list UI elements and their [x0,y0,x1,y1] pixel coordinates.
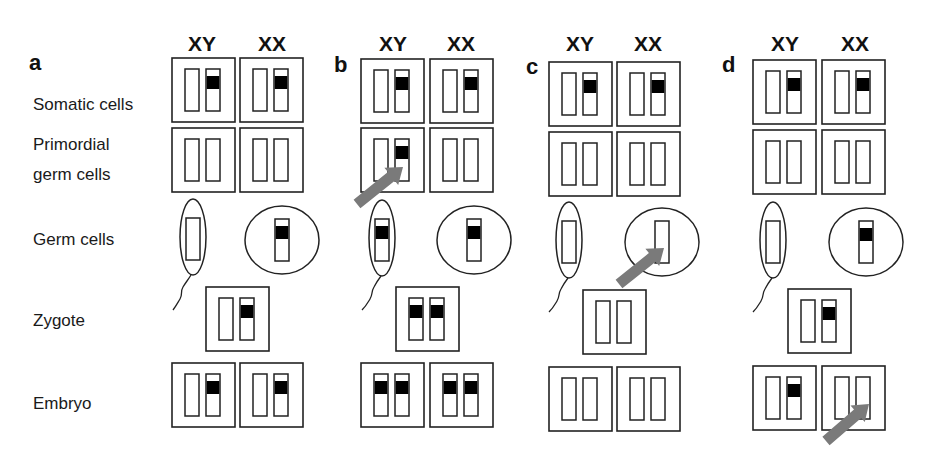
somatic-cell-xy [172,58,235,122]
column-label-xy: XY [188,32,216,55]
column-label-xy: XY [771,32,799,55]
chromosome [562,221,576,263]
sperm-cell [753,202,786,312]
primordial-germ-cell-xx [617,132,680,196]
embryo-cell-xx [430,363,493,427]
imprint-mark [207,76,220,89]
sperm-cell [549,202,582,312]
chromosome [651,73,665,115]
chromosome [253,139,267,181]
panel-b: bXYXX [334,32,511,427]
imprinting-diagram: Somatic cellsPrimordialgerm cellsGerm ce… [0,0,938,463]
chromosome [822,300,836,342]
panel-d: dXYXX [722,32,903,445]
chromosome [253,374,267,416]
zygote-cell [788,289,851,353]
imprint-mark [860,228,873,241]
sperm-tail [549,278,568,312]
zygote-cell [206,287,269,351]
chromosome [766,221,780,263]
imprint-mark [465,381,478,394]
imprint-mark [376,226,389,239]
zygote-cell [583,290,646,354]
chromosome [596,301,610,343]
chromosome [583,378,597,420]
row-label-pgc: germ cells [33,165,110,184]
chromosome [562,378,576,420]
chromosome [562,73,576,115]
somatic-cell-xx [240,58,303,122]
primordial-germ-cell-xy [753,130,816,194]
chromosome [219,298,233,340]
chromosome [443,70,457,112]
panel-letter: d [722,52,735,77]
imprint-mark [396,77,409,90]
imprint-mark [410,305,423,318]
chromosome [787,71,801,113]
chromosome [856,71,870,113]
panel-letter: a [29,50,42,75]
imprint-mark [275,381,288,394]
primordial-germ-cell-xx [822,130,885,194]
chromosome [185,69,199,111]
imprint-mark [207,381,220,394]
imprint-mark [375,381,388,394]
row-label-zygote: Zygote [33,311,85,330]
sperm-cell [362,200,395,310]
imprint-mark [276,226,289,239]
chromosome [443,139,457,181]
imprint-mark [823,307,836,320]
chromosome [766,377,780,419]
row-labels: Somatic cellsPrimordialgerm cellsGerm ce… [33,95,133,413]
chromosome [274,139,288,181]
chromosome [583,143,597,185]
chromosome [583,73,597,115]
chromosome [253,69,267,111]
chromosome [185,139,199,181]
chromosome [409,298,423,340]
primordial-germ-cell-xx [430,128,493,192]
row-label-embryo: Embryo [33,394,92,413]
primordial-germ-cell-xx [240,128,303,192]
somatic-cell-xy [753,60,816,124]
embryo-cell-xy [172,363,235,427]
primordial-germ-cell-xy [172,128,235,192]
chromosome [274,374,288,416]
column-label-xx: XX [447,32,475,55]
chromosome [766,71,780,113]
chromosome [787,141,801,183]
chromosome [464,139,478,181]
imprint-mark [857,78,870,91]
chromosome [206,374,220,416]
egg-cell [829,208,903,276]
chromosome [375,219,389,261]
chromosome [374,70,388,112]
chromosome [856,141,870,183]
chromosome [801,300,815,342]
chromosome [395,374,409,416]
zygote-cell [396,287,459,351]
egg-cell [437,206,511,274]
chromosome [766,141,780,183]
imprint-mark [468,226,481,239]
chromosome [630,143,644,185]
imprint-mark [465,77,478,90]
somatic-cell-xx [617,62,680,126]
chromosome [787,377,801,419]
sperm-tail [753,278,772,312]
sperm-tail [173,275,191,310]
primordial-germ-cell-xy [549,132,612,196]
change-arrow-icon [616,248,664,288]
chromosome [835,141,849,183]
embryo-cell-xy [361,363,424,427]
chromosome [617,301,631,343]
imprint-mark [788,78,801,91]
row-label-germ: Germ cells [33,230,114,249]
chromosome [651,378,665,420]
sperm-tail [362,276,381,310]
row-label-pgc: Primordial [33,135,110,154]
chromosome [206,139,220,181]
chromosome [186,218,200,260]
chromosome [395,70,409,112]
chromosome [240,298,254,340]
